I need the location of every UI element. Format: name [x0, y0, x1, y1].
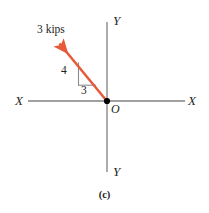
slope-run-label: 3	[81, 85, 87, 97]
axis-label-y-top: Y	[113, 14, 120, 27]
force-magnitude-label: 3 kips	[37, 24, 65, 36]
figure-caption: (c)	[0, 190, 209, 201]
axis-label-x-left: X	[15, 94, 23, 107]
axis-label-y-bottom: Y	[113, 165, 120, 178]
slope-rise-label: 4	[61, 65, 67, 77]
force-vector-figure: X X Y Y O 3 kips 4 3 (c)	[0, 0, 209, 213]
origin-label: O	[111, 103, 120, 115]
figure-canvas	[0, 0, 209, 213]
origin-dot	[104, 98, 110, 104]
axis-label-x-right: X	[188, 94, 196, 107]
